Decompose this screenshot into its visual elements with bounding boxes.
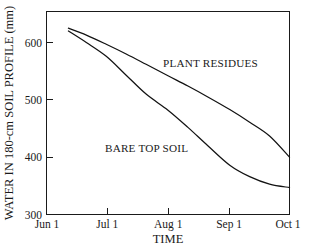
series-line-bare-top-soil	[68, 31, 289, 188]
series-annotation-plant-residues: PLANT RESIDUES	[163, 57, 258, 69]
y-tick-label-600: 600	[25, 37, 43, 49]
x-tick-label-aug-1: Aug 1	[154, 218, 183, 231]
series-annotation-bare-top-soil: BARE TOP SOIL	[105, 142, 188, 154]
y-tick-label-500: 500	[25, 94, 43, 106]
axis-frame-left-bottom	[47, 11, 291, 215]
x-tick-label-sep-1: Sep 1	[216, 218, 242, 231]
y-tick-label-400: 400	[25, 151, 43, 163]
x-tick-label-jun-1: Jun 1	[35, 218, 60, 230]
y-axis-title: WATER IN 180-cm SOIL PROFILE (mm)	[2, 6, 16, 220]
x-tick-label-jul-1: Jul 1	[96, 218, 118, 230]
x-tick-label-oct-1: Oct 1	[275, 218, 300, 230]
x-axis-ticks	[47, 208, 290, 215]
series-line-plant-residues	[68, 28, 289, 157]
x-axis-title: TIME	[153, 232, 184, 246]
chart-canvas: 300 400 500 600 Jun 1 Jul 1 Aug 1 Sep 1 …	[0, 0, 310, 250]
chart-figure: 300 400 500 600 Jun 1 Jul 1 Aug 1 Sep 1 …	[0, 0, 310, 250]
y-axis-ticks	[47, 43, 54, 215]
